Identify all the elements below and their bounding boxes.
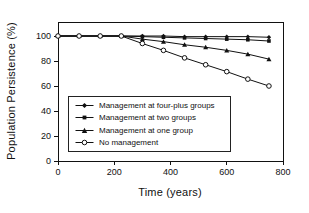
- y-tick-label: 80: [41, 56, 51, 66]
- y-tick-label: 100: [36, 31, 51, 41]
- legend-item: Management at four-plus groups: [75, 101, 228, 110]
- legend-label: No management: [99, 138, 158, 147]
- square-marker-icon: [75, 113, 94, 122]
- data-point-square: [267, 39, 271, 43]
- data-point-square: [246, 38, 250, 42]
- legend-label: Management at one group: [99, 126, 193, 135]
- data-point-square: [162, 35, 166, 39]
- legend-label: Management at two groups: [99, 113, 196, 122]
- data-point-circle: [56, 34, 61, 39]
- data-point-square: [183, 36, 187, 40]
- data-point-square: [225, 37, 229, 41]
- x-tick-label: 0: [55, 167, 60, 177]
- y-tick-label: 20: [41, 131, 51, 141]
- data-point-circle: [161, 48, 166, 53]
- legend-label: Management at four-plus groups: [99, 101, 215, 110]
- y-tick-label: 60: [41, 81, 51, 91]
- data-point-circle: [77, 34, 82, 39]
- legend-item: Management at one group: [75, 126, 228, 135]
- data-point-diamond: [267, 35, 271, 39]
- y-axis-title: Population Persistence (%): [5, 22, 17, 160]
- data-point-circle: [203, 62, 208, 67]
- x-tick-label: 200: [107, 167, 122, 177]
- y-tick-label: 40: [41, 106, 51, 116]
- data-point-circle: [119, 34, 124, 39]
- x-axis-title: Time (years): [138, 186, 202, 198]
- population-persistence-chart: 0200400600800020406080100 Population Per…: [0, 0, 309, 213]
- x-tick-label: 400: [163, 167, 178, 177]
- data-point-circle: [98, 34, 103, 39]
- diamond-marker-icon: [75, 101, 94, 110]
- data-point-square: [204, 37, 208, 41]
- data-point-circle: [182, 56, 187, 61]
- x-tick-label: 800: [275, 167, 290, 177]
- y-tick-label: 0: [46, 156, 51, 166]
- triangle-marker-icon: [75, 126, 94, 135]
- data-point-circle: [267, 84, 272, 89]
- legend: Management at four-plus groups Managemen…: [68, 96, 231, 152]
- x-tick-label: 600: [219, 167, 234, 177]
- legend-item: Management at two groups: [75, 113, 228, 122]
- data-point-circle: [246, 77, 251, 82]
- data-point-circle: [224, 69, 229, 74]
- legend-item: No management: [75, 138, 228, 147]
- data-point-circle: [140, 41, 145, 46]
- open-circle-marker-icon: [75, 138, 94, 147]
